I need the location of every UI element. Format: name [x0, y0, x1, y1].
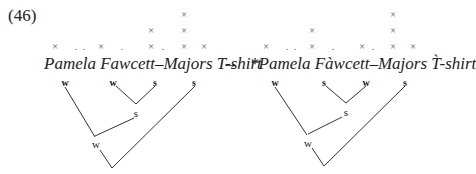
tree-branches — [0, 0, 433, 174]
